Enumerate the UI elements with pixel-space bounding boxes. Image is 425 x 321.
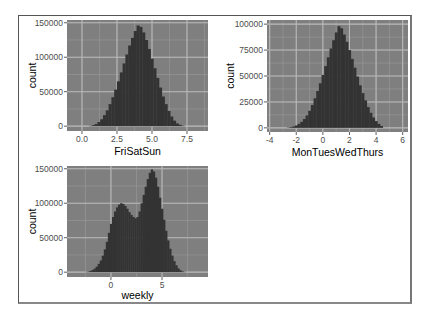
histogram-bar [170,117,173,127]
histogram-bar [369,113,372,128]
histogram-bar [111,97,114,126]
histogram-bar [319,83,322,128]
histogram-bar [351,59,354,128]
histogram-bar [97,122,100,126]
x-tick-label: -2 [292,135,300,145]
histogram-bar [151,59,154,127]
histogram-bar [145,40,148,126]
histogram-bar [137,26,140,127]
histogram-bar [112,217,114,272]
histogram-bar [141,203,143,272]
x-tick-label: 6 [400,135,405,145]
histogram-bar [181,271,183,272]
histogram-bar [145,187,147,272]
histogram-bar [165,231,167,272]
histogram-bar [173,121,176,127]
histogram-bar [306,115,309,127]
histogram-fri-sat-sun: 0.02.55.07.5050000100000150000FriSatSunc… [26,18,208,157]
histogram-bar [175,265,177,272]
histogram-bar [142,32,145,126]
x-tick-label: -4 [266,135,274,145]
x-axis-title: weekly [120,289,154,301]
histogram-bar [290,127,293,128]
histogram-bar [298,124,301,128]
histogram-bar [165,104,168,126]
y-tick-label: 0 [58,267,63,277]
histogram-bar [100,119,103,126]
histogram-bar [117,81,120,126]
histogram-bar [345,42,348,128]
histogram-bar [348,50,351,128]
histogram-bar [300,122,303,128]
histogram-bar [95,124,98,126]
histogram-bar [380,126,383,128]
histogram-bar [123,63,126,126]
histogram-grid: 0.02.55.07.5050000100000150000FriSatSunc… [0,0,425,321]
y-tick-label: 75000 [239,45,263,55]
histogram-bar [377,124,380,128]
histogram-bar [314,98,317,128]
histogram-mon-tues-wed-thurs: -4-202460250005000075000100000MonTuesWed… [224,19,408,158]
histogram-bar [367,107,370,128]
histogram-bar [96,267,98,273]
x-tick-label: 5.0 [146,134,158,144]
histogram-bar [147,179,149,272]
histogram-bar [102,256,104,273]
histogram-bar [156,78,159,126]
histogram-bar [327,57,330,128]
histogram-bar [143,195,145,272]
histogram-bar [134,31,137,126]
histogram-bar [134,218,136,272]
histogram-bar [89,271,91,272]
y-tick-label: 100000 [235,19,264,29]
histogram-bar [159,198,161,272]
x-tick-label: 2.5 [111,134,123,144]
y-axis-title: count [26,209,38,235]
histogram-bar [92,125,95,126]
histogram-bar [130,215,132,272]
histogram-bar [361,93,364,128]
histogram-bar [153,68,156,126]
y-tick-label: 150000 [35,164,64,174]
histogram-bar [176,123,179,126]
x-tick-label: 0 [321,135,326,145]
histogram-bar [181,126,184,127]
histogram-bar [98,264,100,272]
histogram-bar [87,272,89,273]
histogram-bar [120,203,122,272]
histogram-bar [94,269,96,273]
histogram-bar [372,117,375,127]
y-tick-label: 50000 [39,233,63,243]
histogram-bar [340,28,343,128]
histogram-bar [308,111,311,128]
histogram-bar [120,72,123,126]
histogram-bar [324,66,327,128]
histogram-bar [332,40,335,128]
histogram-bar [343,35,346,128]
histogram-bar [311,105,314,128]
histogram-bar [104,249,106,272]
histogram-bar [155,178,157,272]
histogram-bar [316,91,319,128]
histogram-bar [118,205,120,273]
histogram-bar [335,32,338,127]
histogram-bar [131,38,134,126]
histogram-bar [179,125,182,126]
histogram-bar [159,88,162,127]
histogram-bar [364,100,367,127]
histogram-bar [148,49,151,126]
histogram-bar [162,97,165,127]
histogram-bar [322,75,325,128]
histogram-bar [169,249,171,272]
histogram-bar [157,187,159,272]
histogram-bar [356,77,359,128]
histogram-bar [151,169,153,272]
y-tick-label: 25000 [239,97,263,107]
histogram-bar [122,204,124,272]
histogram-bar [173,261,175,272]
histogram-bar [177,268,179,272]
histogram-bar [125,54,128,126]
y-tick-label: 150000 [35,18,64,28]
histogram-bar [136,217,138,272]
x-tick-label: 7.5 [181,134,193,144]
